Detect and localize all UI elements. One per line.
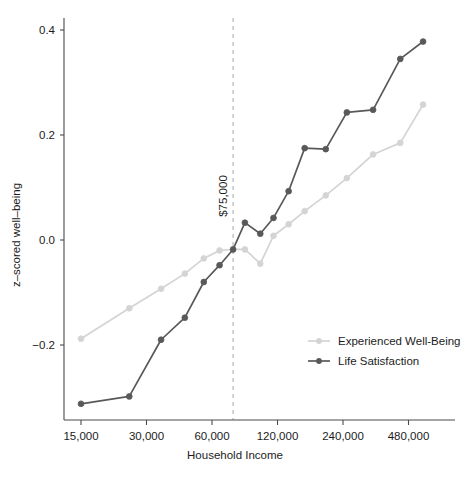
chart-figure: $75,000 0.40.20.0−0.215,00030,00060,0001… <box>0 0 470 485</box>
series-life-satisfaction <box>78 39 426 407</box>
data-point-marker <box>201 255 207 261</box>
data-point-marker <box>182 315 188 321</box>
data-point-marker <box>158 337 164 343</box>
reference-line-label: $75,000 <box>217 175 229 217</box>
data-point-marker <box>344 110 350 116</box>
y-axis-title: z–scored well–being <box>10 183 22 287</box>
data-point-marker <box>242 247 248 253</box>
data-point-marker <box>78 401 84 407</box>
legend-label: Life Satisfaction <box>338 355 419 367</box>
data-point-marker <box>271 233 277 239</box>
data-point-marker <box>126 394 132 400</box>
data-point-marker <box>302 208 308 214</box>
data-point-marker <box>420 39 426 45</box>
y-tick-label: −0.2 <box>32 339 55 351</box>
data-point-marker <box>230 247 236 253</box>
x-tick-label: 480,000 <box>388 430 430 442</box>
series-line <box>81 105 423 339</box>
data-point-marker <box>217 262 223 268</box>
series-experienced-well-being <box>78 102 426 342</box>
data-point-marker <box>286 221 292 227</box>
data-point-marker <box>370 152 376 158</box>
data-point-marker <box>323 192 329 198</box>
axis-layer: 0.40.20.0−0.215,00030,00060,000120,00024… <box>32 18 455 442</box>
x-tick-label: 15,000 <box>63 430 98 442</box>
data-point-marker <box>302 145 308 151</box>
series-layer <box>78 39 426 407</box>
data-point-marker <box>182 271 188 277</box>
data-point-marker <box>126 305 132 311</box>
well-being-income-line-chart: $75,000 0.40.20.0−0.215,00030,00060,0001… <box>0 0 470 485</box>
data-point-marker <box>420 102 426 108</box>
data-point-marker <box>257 261 263 267</box>
data-point-marker <box>257 231 263 237</box>
data-point-marker <box>158 286 164 292</box>
data-point-marker <box>344 175 350 181</box>
legend-item-experienced-well-being[interactable]: Experienced Well-Being <box>308 335 461 347</box>
legend-item-life-satisfaction[interactable]: Life Satisfaction <box>308 355 419 367</box>
data-point-marker <box>286 188 292 194</box>
legend-marker-swatch <box>316 358 322 364</box>
legend-label: Experienced Well-Being <box>338 335 461 347</box>
legend-marker-swatch <box>316 338 322 344</box>
data-point-marker <box>242 220 248 226</box>
data-point-marker <box>217 248 223 254</box>
y-tick-label: 0.4 <box>39 24 56 36</box>
x-axis-title: Household Income <box>187 449 283 461</box>
data-point-marker <box>370 107 376 113</box>
x-tick-label: 30,000 <box>129 430 164 442</box>
data-point-marker <box>397 140 403 146</box>
y-tick-label: 0.0 <box>39 234 55 246</box>
data-point-marker <box>323 146 329 152</box>
data-point-marker <box>78 336 84 342</box>
data-point-marker <box>271 215 277 221</box>
x-tick-label: 120,000 <box>257 430 299 442</box>
legend-layer[interactable]: Experienced Well-BeingLife Satisfaction <box>308 335 461 367</box>
x-tick-label: 240,000 <box>322 430 364 442</box>
series-line <box>81 42 423 404</box>
y-tick-label: 0.2 <box>39 129 55 141</box>
x-tick-label: 60,000 <box>194 430 229 442</box>
reference-line-layer: $75,000 <box>217 18 233 420</box>
data-point-marker <box>201 279 207 285</box>
data-point-marker <box>397 56 403 62</box>
